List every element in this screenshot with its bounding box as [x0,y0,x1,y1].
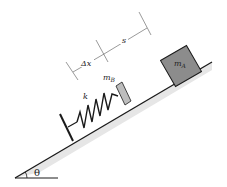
plate-b-label: mB [103,73,116,83]
plate-b [116,82,131,105]
gap-label: s [122,36,126,45]
wall-stop [60,114,73,141]
dim-ext-1 [66,62,78,80]
spring-rod [68,122,77,127]
dim-ext-2 [96,40,108,62]
incline-spring-diagram: θ k mB mA Δx s [0,0,227,187]
compression-label: Δx [80,59,92,68]
angle-label: θ [34,167,40,178]
spring-label: k [83,92,88,101]
